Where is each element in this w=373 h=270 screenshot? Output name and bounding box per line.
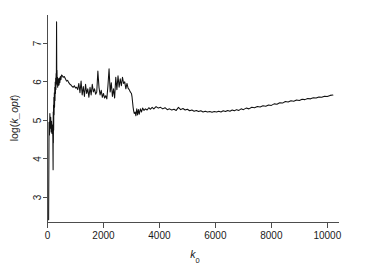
x-tick-label: 4000 [148, 230, 171, 241]
x-axis-tick-labels: 0200040006000800010000 [45, 230, 342, 241]
y-tick-label: 4 [32, 156, 43, 162]
y-axis-tick-labels: 34567 [32, 40, 43, 200]
x-axis-title: k0 [190, 248, 199, 265]
y-tick-label: 3 [32, 194, 43, 200]
x-axis-tick-marks [48, 223, 328, 228]
x-tick-label: 8000 [260, 230, 283, 241]
x-tick-label: 2000 [92, 230, 115, 241]
y-axis-title: log(k_opt) [8, 95, 20, 142]
y-tick-label: 5 [32, 117, 43, 123]
axes [48, 15, 339, 223]
y-axis-tick-marks [43, 43, 48, 197]
y-tick-label: 6 [32, 79, 43, 85]
chart-figure: 34567 0200040006000800010000 log(k_opt) … [0, 0, 373, 270]
x-tick-label: 0 [45, 230, 51, 241]
data-series-group [49, 22, 333, 220]
line-chart: 34567 0200040006000800010000 log(k_opt) … [0, 0, 373, 270]
x-tick-label: 6000 [204, 230, 227, 241]
y-tick-label: 7 [32, 40, 43, 46]
data-line-log-k-opt [49, 22, 333, 220]
x-tick-label: 10000 [313, 230, 341, 241]
